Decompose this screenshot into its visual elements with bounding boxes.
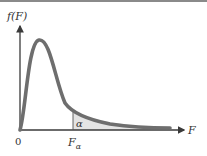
y-axis-label: f(F): [6, 10, 27, 23]
critical-value-label: Fα: [67, 136, 82, 151]
alpha-label: α: [76, 118, 83, 129]
x-axis-label: F: [187, 124, 196, 137]
density-curve: [20, 40, 170, 130]
origin-label: 0: [15, 136, 21, 147]
f-distribution-diagram: f(F) F 0 Fα α: [0, 0, 207, 156]
